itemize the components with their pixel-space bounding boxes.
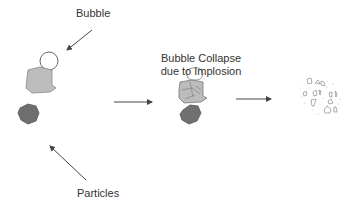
dispersed-fragments-icon: [303, 78, 337, 113]
bubble-label: Bubble: [76, 7, 110, 19]
dark-particle-icon: [18, 104, 39, 124]
collapse-label: Bubble Collapse due to Implosion: [151, 52, 251, 78]
light-particle-icon: [26, 67, 56, 93]
particles-pointer-arrow: [50, 146, 86, 180]
stage-initial: [18, 30, 92, 180]
collapse-label-line-2: due to Implosion: [151, 65, 251, 78]
collapse-label-line-1: Bubble Collapse: [151, 52, 251, 65]
dark-particle-icon: [180, 105, 201, 124]
fragmenting-particle-icon: [179, 80, 207, 103]
spray-dots: [299, 83, 340, 114]
stage-result: [299, 78, 340, 115]
diagram-canvas: [0, 0, 358, 213]
particles-label: Particles: [77, 187, 119, 199]
bubble-pointer-arrow: [67, 30, 92, 50]
